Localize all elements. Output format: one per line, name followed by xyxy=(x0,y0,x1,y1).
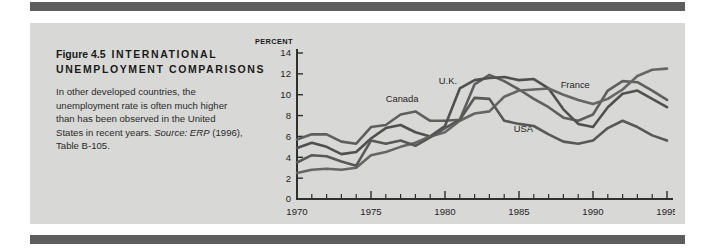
x-axis-ticks-group: 197019751980198519901995 xyxy=(286,191,675,217)
caption-line-5: Table B-105. xyxy=(56,140,110,151)
caption-body: In other developed countries, the unempl… xyxy=(56,85,270,153)
caption-line-1: In other developed countries, the xyxy=(56,86,196,97)
figure-caption: Figure 4.5 INTERNATIONAL UNEMPLOYMENT CO… xyxy=(56,47,270,153)
caption-line-3: than has been observed in the United xyxy=(56,113,215,124)
y-tick-label: 6 xyxy=(286,131,291,142)
x-tick-label: 1995 xyxy=(656,206,675,217)
series-label-usa: USA xyxy=(514,123,534,134)
series-lines-group xyxy=(297,69,667,173)
series-label-canada: Canada xyxy=(386,93,420,104)
x-tick-label: 1985 xyxy=(508,206,529,217)
y-tick-label: 2 xyxy=(286,173,291,184)
series-label-france: France xyxy=(561,79,590,90)
y-axis-unit-label-group: PERCENT xyxy=(255,37,293,46)
figure-panel: Figure 4.5 INTERNATIONAL UNEMPLOYMENT CO… xyxy=(30,23,685,224)
caption-line-2: unemployment rate is often much higher xyxy=(56,100,227,111)
series-line-canada xyxy=(297,75,667,144)
series-line-usa xyxy=(297,98,667,166)
x-tick-label: 1990 xyxy=(582,206,603,217)
x-tick-label: 1980 xyxy=(434,206,455,217)
y-tick-label: 4 xyxy=(286,152,292,163)
figure-number: Figure 4.5 xyxy=(56,48,106,60)
y-tick-label: 0 xyxy=(286,193,291,204)
y-tick-label: 12 xyxy=(280,68,291,79)
caption-title: Figure 4.5 INTERNATIONAL UNEMPLOYMENT CO… xyxy=(56,47,270,76)
x-tick-label: 1975 xyxy=(360,206,381,217)
series-line-france xyxy=(297,69,667,173)
figure-page: Figure 4.5 INTERNATIONAL UNEMPLOYMENT CO… xyxy=(0,0,716,251)
unemployment-line-chart: PERCENT 02468101214 19701975198019851990… xyxy=(255,31,675,221)
caption-line-4-pre: States in recent years. xyxy=(56,127,154,138)
y-tick-label: 10 xyxy=(280,89,291,100)
series-label-uk: U.K. xyxy=(439,75,457,86)
caption-source: Source: ERP xyxy=(154,127,209,138)
caption-line-4-post: (1996), xyxy=(210,127,243,138)
y-axis-ticks-group: 02468101214 xyxy=(280,47,303,204)
y-tick-label: 14 xyxy=(280,47,291,58)
bottom-rule-bar xyxy=(30,235,685,244)
top-rule-bar xyxy=(30,2,685,11)
x-tick-label: 1970 xyxy=(286,206,307,217)
y-tick-label: 8 xyxy=(286,110,291,121)
y-axis-unit-label: PERCENT xyxy=(255,37,293,46)
chart-svg: PERCENT 02468101214 19701975198019851990… xyxy=(255,31,675,221)
